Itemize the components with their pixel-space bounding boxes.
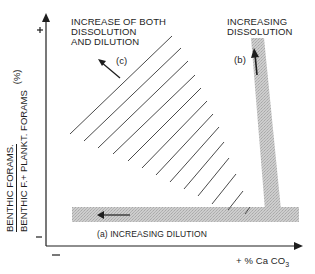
y-axis-fraction: BENTHIC FORAMS. BENTHIC F.+ PLANKT. FORA… <box>4 90 29 232</box>
x-axis-label-subscript: 3 <box>285 261 289 268</box>
y-axis <box>36 13 50 246</box>
y-axis-unit: (%) <box>11 69 22 84</box>
x-axis-label: + % Ca CO3 <box>236 256 289 270</box>
region-b-letter: (b) <box>234 55 246 65</box>
y-axis-label: BENTHIC FORAMS. BENTHIC F.+ PLANKT. FORA… <box>4 69 29 232</box>
region-a-label: (a) INCREASING DILUTION <box>97 229 207 239</box>
x-axis <box>46 242 303 255</box>
region-b-title: INCREASING DISSOLUTION <box>227 17 293 37</box>
region-c-title-line3: AND DILUTION <box>71 37 166 47</box>
hatch-region-c <box>70 36 250 214</box>
region-b-title-line2: DISSOLUTION <box>227 27 293 37</box>
region-c-letter: (c) <box>116 56 127 66</box>
x-axis-label-text: + % Ca CO <box>236 255 285 266</box>
y-axis-numerator: BENTHIC FORAMS. <box>4 144 17 232</box>
region-c-title: INCREASE OF BOTH DISSOLUTION AND DILUTIO… <box>71 17 166 47</box>
y-axis-denominator: BENTHIC F.+ PLANKT. FORAMS <box>17 90 29 232</box>
